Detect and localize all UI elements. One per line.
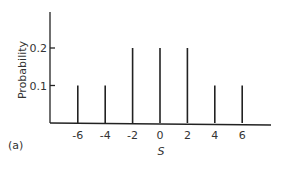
y-ticks: 0.10.2 <box>30 42 56 93</box>
x-tick-label: 0 <box>157 129 164 142</box>
x-axis <box>50 123 271 125</box>
x-tick-labels: -6-4-20246 <box>72 129 245 142</box>
x-tick-label: -2 <box>127 129 138 142</box>
x-axis-title: S <box>158 145 165 158</box>
x-tick-label: 6 <box>239 129 246 142</box>
y-axis-title: Probability <box>16 40 29 99</box>
stems <box>78 48 242 123</box>
y-tick-label: 0.1 <box>30 80 48 93</box>
x-tick-label: -4 <box>100 129 111 142</box>
stem-chart: 0.10.2 -6-4-20246 Probability S (a) <box>0 0 285 175</box>
x-tick-label: 2 <box>184 129 191 142</box>
panel-label: (a) <box>8 139 23 152</box>
x-tick-label: -6 <box>72 129 83 142</box>
y-tick-label: 0.2 <box>30 42 48 55</box>
x-tick-label: 4 <box>211 129 218 142</box>
